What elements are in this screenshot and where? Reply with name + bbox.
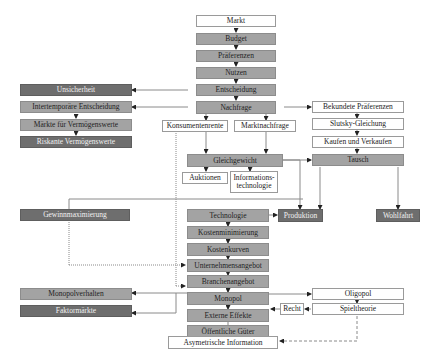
node-technologie: Technologie xyxy=(187,209,269,222)
node-recht: Recht xyxy=(280,303,304,315)
node-label: Produktion xyxy=(284,212,317,220)
node-label: Slutsky-Gleichung xyxy=(330,120,386,128)
node-label: Intertemporäre Entscheidung xyxy=(32,103,119,111)
node-marktnachfrage: Marktnachfrage xyxy=(234,120,296,132)
node-label: Konsumentenrente xyxy=(167,122,224,130)
node-intertemporaere-entscheidung: Intertemporäre Entscheidung xyxy=(20,101,132,113)
node-branchenangebot: Branchenangebot xyxy=(187,275,269,288)
node-asymetrische-information: Asymetrische Information xyxy=(168,336,278,349)
node-label: Faktormärkte xyxy=(56,307,96,315)
node-label: Märkte für Vermögenswerte xyxy=(34,121,118,129)
node-label: Kaufen und Verkaufen xyxy=(324,138,392,146)
node-label: Monopol xyxy=(214,295,242,303)
node-label: Kostenminimierung xyxy=(198,229,258,237)
node-tausch: Tausch xyxy=(312,154,404,166)
node-maerkte-vermoegenswerte: Märkte für Vermögenswerte xyxy=(20,119,132,131)
node-label: Gewinnmaximierung xyxy=(43,211,107,219)
node-budget: Budget xyxy=(196,33,276,45)
node-label: Markt xyxy=(227,17,245,25)
node-label: Wohlfahrt xyxy=(383,212,413,220)
node-label: Kostenkurven xyxy=(207,246,249,254)
node-label: Spieltheorie xyxy=(340,305,376,313)
node-label: Öffentliche Güter xyxy=(202,328,255,336)
node-konsumentenrente: Konsumentenrente xyxy=(162,120,228,132)
node-kostenkurven: Kostenkurven xyxy=(187,243,269,256)
node-faktormaerkte: Faktormärkte xyxy=(20,305,132,317)
node-label: Budget xyxy=(225,35,247,43)
node-label: Recht xyxy=(283,305,301,313)
node-label: Unternehmensangebot xyxy=(194,262,261,270)
node-wohlfahrt: Wohlfahrt xyxy=(376,209,420,222)
node-label: Bekundete Präferenzen xyxy=(323,103,393,111)
node-gleichgewicht: Gleichgewicht xyxy=(187,154,283,167)
node-label: technologie xyxy=(237,182,272,190)
node-label: Externe Effekte xyxy=(204,312,251,320)
node-gewinnmaximierung: Gewinnmaximierung xyxy=(20,209,130,221)
node-unsicherheit: Unsicherheit xyxy=(20,84,132,96)
node-oligopol: Oligopol xyxy=(312,288,404,300)
node-externe-effekte: Externe Effekte xyxy=(187,309,269,322)
node-label: Oligopol xyxy=(345,290,372,298)
node-label: Unsicherheit xyxy=(57,86,95,94)
node-produktion: Produktion xyxy=(278,209,323,222)
node-praeferenzen: Präferenzen xyxy=(196,50,276,62)
node-kostenminimierung: Kostenminimierung xyxy=(187,226,269,239)
node-monopolverhalten: Monopolverhalten xyxy=(20,288,132,300)
node-label: Auktionen xyxy=(189,174,221,182)
node-label: Nutzen xyxy=(225,69,247,77)
node-bekundete-praeferenzen: Bekundete Präferenzen xyxy=(312,101,404,113)
node-entscheidung: Entscheidung xyxy=(196,84,276,96)
node-monopol: Monopol xyxy=(187,292,269,305)
node-nutzen: Nutzen xyxy=(196,67,276,79)
node-nachfrage: Nachfrage xyxy=(196,101,276,114)
node-auktionen: Auktionen xyxy=(182,172,228,184)
node-label: Monopolverhalten xyxy=(48,290,103,298)
node-label: Branchenangebot xyxy=(202,278,254,286)
node-label: Nachfrage xyxy=(220,104,251,112)
node-unternehmensangebot: Unternehmensangebot xyxy=(187,259,269,272)
node-label: Technologie xyxy=(210,212,247,220)
node-riskante-vermoegenswerte: Riskante Vermögenswerte xyxy=(20,136,132,148)
node-label: Tausch xyxy=(347,156,368,164)
node-slutsky-gleichung: Slutsky-Gleichung xyxy=(312,118,404,130)
node-label: Riskante Vermögenswerte xyxy=(37,138,115,146)
node-label: Marktnachfrage xyxy=(241,122,289,130)
node-markt: Markt xyxy=(196,15,276,27)
node-informationstechnologie: Informations- technologie xyxy=(230,171,278,193)
node-spieltheorie: Spieltheorie xyxy=(312,303,404,315)
node-kaufen-verkaufen: Kaufen und Verkaufen xyxy=(312,136,404,148)
node-label: Entscheidung xyxy=(216,86,257,94)
node-label: Gleichgewicht xyxy=(213,157,257,165)
node-label: Asymetrische Information xyxy=(184,339,263,347)
node-label: Präferenzen xyxy=(218,52,254,60)
flowchart-canvas: Markt Budget Präferenzen Nutzen Entschei… xyxy=(0,0,436,360)
